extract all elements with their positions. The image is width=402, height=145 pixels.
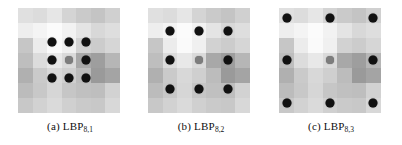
grid-cell <box>206 68 221 83</box>
grid-cell <box>323 53 338 68</box>
caption-panel-b: (b) LBP8,2 <box>131 120 271 134</box>
grid-cell <box>33 83 48 98</box>
grid-cell <box>221 38 236 53</box>
caption-operator-a: LBP <box>63 120 84 132</box>
grid-cell <box>337 53 352 68</box>
grid-cell <box>148 23 163 38</box>
grid-cell <box>148 83 163 98</box>
grid-cell <box>62 68 77 83</box>
grid-cell <box>294 53 309 68</box>
grid-cell <box>62 23 77 38</box>
grid-cell <box>352 98 367 113</box>
grid-cell <box>235 8 250 23</box>
grid-cell <box>76 98 91 113</box>
grid-cell <box>366 83 381 98</box>
grid-cell <box>323 83 338 98</box>
grid-cell <box>62 83 77 98</box>
grid-cell <box>337 38 352 53</box>
grid-cell <box>279 68 294 83</box>
grid-cell <box>163 38 178 53</box>
caption-index-a: (a) <box>47 120 60 132</box>
grid-cell <box>279 98 294 113</box>
grid-cell <box>76 8 91 23</box>
grid-cell <box>323 38 338 53</box>
grid-cell <box>47 83 62 98</box>
grid-cell <box>148 98 163 113</box>
grid-cell <box>91 23 106 38</box>
grid-cell <box>366 98 381 113</box>
grid-cell <box>105 53 120 68</box>
grid-cell <box>177 83 192 98</box>
grid-cell <box>323 23 338 38</box>
grid-cell <box>177 98 192 113</box>
grid-cell <box>33 8 48 23</box>
grid-cell <box>308 68 323 83</box>
grid-cell <box>148 53 163 68</box>
grid-cell <box>18 38 33 53</box>
caption-index-c: (c) <box>308 120 321 132</box>
grid-cell <box>308 23 323 38</box>
grid-cell <box>192 98 207 113</box>
grid-cell <box>279 8 294 23</box>
grid-cell <box>308 98 323 113</box>
grid-cell <box>163 83 178 98</box>
grid-cell <box>352 83 367 98</box>
caption-subscript-a: 8,1 <box>84 125 93 134</box>
grid-cell <box>279 53 294 68</box>
grid-cell <box>76 53 91 68</box>
grid-cell <box>105 68 120 83</box>
grid-cell <box>323 68 338 83</box>
grid-cell <box>163 8 178 23</box>
grid-cell <box>235 23 250 38</box>
caption-panel-c: (c) LBP8,3 <box>261 120 401 134</box>
lbp-sampling-figure: (a) LBP8,1 (b) LBP8,2 (c) LBP8,3 <box>0 0 402 145</box>
grid-cell <box>308 53 323 68</box>
grid-cell <box>91 83 106 98</box>
grid-cell <box>294 8 309 23</box>
grid-cell <box>337 98 352 113</box>
grid-cell <box>47 23 62 38</box>
grid-cell <box>18 68 33 83</box>
grid-cell <box>33 23 48 38</box>
grid-cell <box>62 53 77 68</box>
grid-cell <box>352 23 367 38</box>
grid-cell <box>76 38 91 53</box>
grid-cell <box>18 53 33 68</box>
grid-cell <box>76 83 91 98</box>
grid-cell <box>323 8 338 23</box>
caption-operator-c: LBP <box>324 120 345 132</box>
grid-cell <box>323 98 338 113</box>
grid-cell <box>33 53 48 68</box>
grid-cell <box>235 68 250 83</box>
grid-cell <box>366 23 381 38</box>
grid-cell <box>337 8 352 23</box>
grid-cell <box>221 53 236 68</box>
grid-cell <box>279 83 294 98</box>
caption-subscript-b: 8,2 <box>215 125 224 134</box>
grid-cell <box>105 8 120 23</box>
grid-cell <box>308 83 323 98</box>
grid-cell <box>192 38 207 53</box>
grid-cell <box>62 38 77 53</box>
grid-cell <box>221 68 236 83</box>
grid-cell <box>47 8 62 23</box>
grid-cell <box>163 53 178 68</box>
grid-cell <box>206 83 221 98</box>
grid-cell <box>105 38 120 53</box>
grid-cell <box>163 98 178 113</box>
grid-cell <box>337 68 352 83</box>
panel-a <box>18 8 120 113</box>
grid-cell <box>76 23 91 38</box>
grid-cell <box>294 68 309 83</box>
grid-cell <box>105 83 120 98</box>
grid-cell <box>294 38 309 53</box>
grid-cell <box>148 68 163 83</box>
grid-cell <box>33 38 48 53</box>
grid-cell <box>352 38 367 53</box>
grid-cell <box>337 23 352 38</box>
grid-cell <box>352 8 367 23</box>
grid-cell <box>91 53 106 68</box>
grid-cell <box>308 8 323 23</box>
grid-cell <box>62 8 77 23</box>
grid-cell <box>163 68 178 83</box>
